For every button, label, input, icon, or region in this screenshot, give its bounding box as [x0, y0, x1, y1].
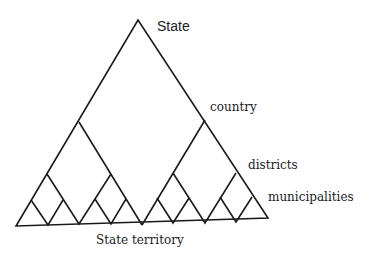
municipality-lines-1	[31, 200, 63, 225]
state-triangle	[16, 20, 268, 226]
label-districts: districts	[248, 158, 298, 173]
hierarchy-triangle-diagram	[0, 0, 372, 260]
district-lines-1	[47, 174, 111, 224]
label-country: country	[210, 100, 257, 115]
municipality-lines-2	[95, 199, 126, 224]
label-municipalities: municipalities	[268, 190, 354, 205]
label-state: State	[157, 19, 190, 34]
municipality-lines-3	[157, 198, 189, 223]
label-state-territory: State territory	[96, 233, 184, 248]
district-lines-2	[173, 173, 236, 223]
